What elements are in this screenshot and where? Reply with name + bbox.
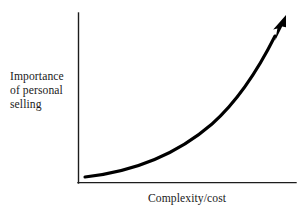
x-axis-label: Complexity/cost bbox=[78, 192, 296, 206]
exponential-curve bbox=[85, 36, 275, 177]
figure-canvas: Importance of personal selling Complexit… bbox=[0, 0, 308, 213]
y-axis-label: Importance of personal selling bbox=[10, 70, 76, 112]
